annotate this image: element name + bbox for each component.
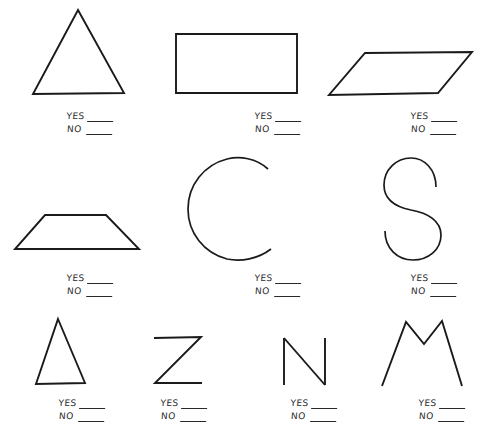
- yes-blank-line[interactable]: [311, 408, 337, 409]
- answer-row-no[interactable]: NO: [67, 285, 114, 298]
- yes-blank-line[interactable]: [275, 121, 301, 122]
- no-label: NO: [291, 410, 307, 423]
- yes-blank-line[interactable]: [79, 408, 105, 409]
- rectangle-figure: [174, 31, 302, 97]
- no-label: NO: [255, 285, 271, 298]
- trapezoid-figure: [10, 208, 144, 254]
- letter-n-figure: [278, 333, 334, 391]
- no-blank-line[interactable]: [78, 421, 104, 422]
- answer-row-yes[interactable]: YES: [160, 397, 208, 410]
- yes-blank-line[interactable]: [87, 121, 113, 122]
- answer-row-no[interactable]: NO: [411, 285, 458, 298]
- answer-row-yes[interactable]: YES: [410, 110, 458, 123]
- answer-block-rectangle: YES NO: [253, 110, 302, 136]
- yes-label: YES: [290, 397, 309, 410]
- answer-row-no[interactable]: NO: [255, 285, 302, 298]
- answer-row-yes[interactable]: YES: [290, 397, 338, 410]
- no-blank-line[interactable]: [274, 296, 300, 297]
- no-blank-line[interactable]: [430, 134, 456, 135]
- yes-label: YES: [254, 272, 273, 285]
- letter-c-figure: [182, 155, 278, 263]
- narrow-triangle-figure: [32, 316, 98, 388]
- yes-blank-line[interactable]: [431, 283, 457, 284]
- answer-row-yes[interactable]: YES: [254, 272, 302, 285]
- answer-row-yes[interactable]: YES: [66, 272, 114, 285]
- no-blank-line[interactable]: [430, 296, 456, 297]
- yes-blank-line[interactable]: [431, 121, 457, 122]
- no-label: NO: [419, 410, 435, 423]
- answer-row-no[interactable]: NO: [255, 123, 302, 136]
- no-label: NO: [67, 123, 83, 136]
- answer-row-yes[interactable]: YES: [66, 110, 114, 123]
- answer-row-yes[interactable]: YES: [418, 397, 466, 410]
- no-label: NO: [161, 410, 177, 423]
- yes-label: YES: [58, 397, 77, 410]
- yes-label: YES: [410, 110, 429, 123]
- letter-z-figure: [150, 333, 206, 389]
- yes-label: YES: [418, 397, 437, 410]
- letter-s-figure: [378, 155, 448, 263]
- answer-block-letter-s: YES NO: [409, 272, 458, 298]
- answer-row-no[interactable]: NO: [161, 410, 208, 423]
- no-label: NO: [255, 123, 271, 136]
- answer-row-no[interactable]: NO: [291, 410, 338, 423]
- parallelogram-figure: [325, 48, 477, 100]
- answer-block-letter-z: YES NO: [159, 397, 208, 423]
- answer-block-triangle-narrow: YES NO: [57, 397, 106, 423]
- yes-label: YES: [254, 110, 273, 123]
- worksheet-page: YES NO YES NO YES NO: [0, 0, 490, 439]
- no-label: NO: [59, 410, 75, 423]
- no-blank-line[interactable]: [438, 421, 464, 422]
- equilateral-triangle-figure: [28, 6, 130, 98]
- answer-block-letter-m: YES NO: [417, 397, 466, 423]
- answer-row-no[interactable]: NO: [59, 410, 106, 423]
- answer-block-letter-c: YES NO: [253, 272, 302, 298]
- yes-blank-line[interactable]: [181, 408, 207, 409]
- answer-row-no[interactable]: NO: [411, 123, 458, 136]
- yes-blank-line[interactable]: [439, 408, 465, 409]
- no-blank-line[interactable]: [310, 421, 336, 422]
- answer-block-triangle-equilateral: YES NO: [65, 110, 114, 136]
- answer-block-trapezoid: YES NO: [65, 272, 114, 298]
- answer-block-letter-n: YES NO: [289, 397, 338, 423]
- no-blank-line[interactable]: [86, 296, 112, 297]
- answer-row-yes[interactable]: YES: [58, 397, 106, 410]
- no-label: NO: [411, 123, 427, 136]
- answer-block-parallelogram: YES NO: [409, 110, 458, 136]
- answer-row-no[interactable]: NO: [419, 410, 466, 423]
- yes-blank-line[interactable]: [87, 283, 113, 284]
- no-blank-line[interactable]: [274, 134, 300, 135]
- answer-row-yes[interactable]: YES: [254, 110, 302, 123]
- letter-m-figure: [376, 316, 468, 390]
- yes-blank-line[interactable]: [275, 283, 301, 284]
- yes-label: YES: [160, 397, 179, 410]
- no-blank-line[interactable]: [180, 421, 206, 422]
- no-label: NO: [67, 285, 83, 298]
- no-blank-line[interactable]: [86, 134, 112, 135]
- no-label: NO: [411, 285, 427, 298]
- answer-row-no[interactable]: NO: [67, 123, 114, 136]
- yes-label: YES: [66, 272, 85, 285]
- yes-label: YES: [410, 272, 429, 285]
- answer-row-yes[interactable]: YES: [410, 272, 458, 285]
- yes-label: YES: [66, 110, 85, 123]
